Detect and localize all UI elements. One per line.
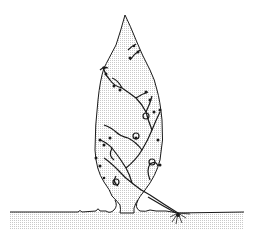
topiary-vine-illustration — [0, 0, 254, 238]
topiary-tree — [95, 15, 163, 213]
